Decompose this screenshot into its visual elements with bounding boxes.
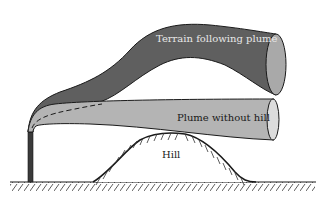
terrain-plume-label: Terrain following plume: [156, 33, 278, 44]
ground: [10, 182, 316, 191]
hill-label: Hill: [162, 149, 180, 160]
plume-diagram: Terrain following plume Plume without hi…: [0, 0, 331, 206]
plume-without-hill-label: Plume without hill: [177, 112, 270, 123]
smoke-stack: [28, 130, 33, 182]
